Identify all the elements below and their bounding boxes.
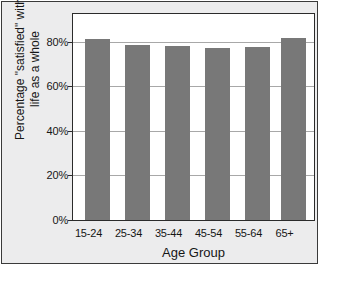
y-tick-label-0: 0%	[53, 214, 69, 226]
bar-55-64	[245, 47, 270, 220]
y-tick-label-60: 60%	[47, 80, 68, 92]
bar-15-24	[85, 39, 110, 220]
x-tick-label-65-plus: 65+	[260, 227, 309, 239]
bar-65-plus	[281, 38, 306, 220]
bar-45-54	[205, 48, 230, 220]
bar-35-44	[165, 46, 190, 220]
footer-caption	[205, 272, 337, 285]
y-axis-tick-labels: 0% 20% 40% 60% 80%	[2, 2, 68, 265]
bar-25-34	[125, 45, 150, 220]
chart-card: Percentage "satisfied" with life as a wh…	[1, 1, 318, 264]
plot-area	[73, 14, 314, 220]
y-tick-label-20: 20%	[47, 169, 68, 181]
y-tick-label-80: 80%	[47, 36, 68, 48]
y-tick-label-40: 40%	[47, 125, 68, 137]
x-axis-title: Age Group	[73, 245, 314, 260]
chart-figure: Percentage "satisfied" with life as a wh…	[0, 0, 337, 285]
